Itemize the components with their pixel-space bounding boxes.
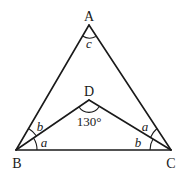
angle-arc-b-lower bbox=[34, 138, 38, 150]
angle-label-a-upper: a bbox=[142, 119, 149, 134]
angle-arc-c-lower bbox=[150, 139, 153, 150]
angle-label-c: c bbox=[86, 36, 92, 51]
angle-arc-c-upper bbox=[151, 129, 158, 138]
triangle-diagram: A B C D c 130° b a a b bbox=[0, 0, 187, 177]
angle-label-130: 130° bbox=[77, 114, 102, 129]
angle-arc-d bbox=[79, 107, 99, 112]
point-label-c: C bbox=[166, 156, 175, 171]
point-label-d: D bbox=[84, 84, 94, 99]
angle-label-a-lower: a bbox=[41, 135, 48, 150]
angle-arc-b-upper bbox=[29, 129, 37, 137]
point-label-b: B bbox=[12, 156, 21, 171]
angle-label-b-lower: b bbox=[135, 135, 142, 150]
angle-label-b-upper: b bbox=[37, 119, 44, 134]
segment-ac bbox=[89, 25, 171, 150]
point-label-a: A bbox=[84, 9, 95, 24]
segment-ab bbox=[16, 25, 89, 150]
